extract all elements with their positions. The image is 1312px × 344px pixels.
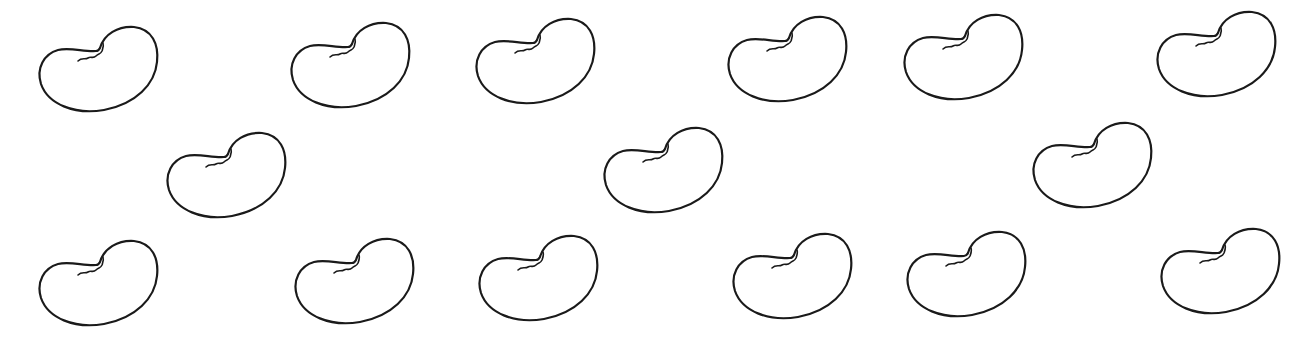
bean-icon xyxy=(478,233,600,323)
bean-icon xyxy=(727,14,849,104)
bean-icon xyxy=(732,231,854,321)
bean-icon xyxy=(166,130,288,220)
bean-icon xyxy=(38,238,160,328)
bean-icon xyxy=(475,16,597,106)
bean-icon xyxy=(1032,120,1154,210)
bean-icon xyxy=(294,236,416,326)
bean-icon xyxy=(603,125,725,215)
bean-icon xyxy=(38,24,160,114)
bean-icon xyxy=(906,229,1028,319)
bean-illustration-canvas xyxy=(0,0,1312,344)
bean-icon xyxy=(1160,226,1282,316)
bean-icon xyxy=(903,12,1025,102)
bean-icon xyxy=(1156,9,1278,99)
bean-icon xyxy=(290,20,412,110)
